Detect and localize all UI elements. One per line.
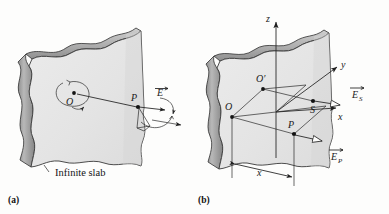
panel-b-caption: (b) <box>198 195 210 206</box>
x-distance-dimension: x <box>235 164 292 178</box>
infinite-slab-caption-leader <box>44 165 49 172</box>
point-O-a-label: O <box>66 96 73 107</box>
panel-a: O P E <box>8 28 181 206</box>
z-axis-label: z <box>265 13 270 24</box>
vector-E-S-b-subscript: S <box>359 95 363 103</box>
point-O-prime-b-label: O′ <box>256 73 266 84</box>
panel-a-caption: (a) <box>8 195 19 206</box>
figure-canvas: O P E <box>0 0 389 214</box>
figure-root: O P E <box>0 0 389 214</box>
x-axis-label: x <box>337 111 343 122</box>
infinite-slab-caption: Infinite slab <box>55 167 105 178</box>
vector-E-S-b-label: E <box>351 89 358 100</box>
x-distance-label: x <box>256 167 262 178</box>
point-O-b-label: O <box>225 101 232 112</box>
panel-b: z y x <box>198 13 364 206</box>
point-P-a-label: P <box>130 92 137 103</box>
slab-a <box>18 28 145 167</box>
point-P-b-label: P <box>287 119 294 130</box>
point-S-b-label: S <box>310 104 315 115</box>
y-axis-label: y <box>340 59 346 70</box>
vector-E-P-b-subscript: P <box>337 157 343 165</box>
vector-E-P-b-label: E <box>330 151 337 162</box>
